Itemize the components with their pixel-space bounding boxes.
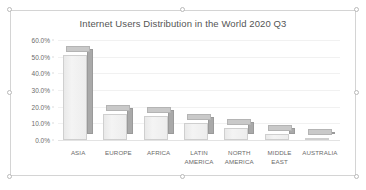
chart-object[interactable]: Internet Users Distribution in the World… — [10, 10, 356, 176]
y-axis-tick-label: 40.0% — [32, 70, 50, 77]
plot-area[interactable] — [58, 40, 340, 147]
x-axis-category-label: ASIA — [58, 149, 98, 158]
axis-baseline — [58, 140, 340, 141]
selection-handle-top-left[interactable] — [7, 7, 12, 12]
selection-handle-bottom-left[interactable] — [7, 174, 12, 179]
y-axis-tick-mark — [52, 106, 54, 107]
bar-front-face — [224, 128, 248, 141]
bar-top-face — [187, 114, 211, 120]
bar-top-face — [308, 129, 332, 135]
gridline — [58, 57, 340, 58]
x-axis-label-line: AMERICA — [179, 158, 219, 167]
gridline — [58, 73, 340, 74]
x-axis-category-label: MIDDLEEAST — [259, 149, 299, 166]
bar-top-face — [66, 46, 90, 52]
bar-latin-america[interactable] — [184, 117, 214, 140]
y-axis-tick-label: 20.0% — [32, 103, 50, 110]
x-axis-label-line: MIDDLE — [259, 149, 299, 158]
x-axis-label-line: AMERICA — [219, 158, 259, 167]
x-axis-label-line: EAST — [259, 158, 299, 167]
y-axis: 0.0%10.0%20.0%30.0%40.0%50.0%60.0% — [10, 40, 54, 147]
bar-side-face — [168, 110, 174, 135]
bar-top-face — [147, 107, 171, 113]
selection-handle-middle-right[interactable] — [354, 90, 359, 95]
bar-europe[interactable] — [103, 108, 133, 141]
y-axis-tick-label: 10.0% — [32, 120, 50, 127]
bar-front-face — [265, 134, 289, 141]
bar-front-face — [184, 123, 208, 140]
y-axis-tick-mark — [52, 123, 54, 124]
y-axis-tick-mark — [52, 56, 54, 57]
x-axis-label-line: EUROPE — [98, 149, 138, 158]
y-axis-tick-label: 50.0% — [32, 53, 50, 60]
bar-north-america[interactable] — [224, 122, 254, 141]
bar-side-face — [87, 49, 93, 134]
bar-asia[interactable] — [63, 49, 93, 140]
chart-title[interactable]: Internet Users Distribution in the World… — [10, 18, 356, 29]
x-axis-label-line: AFRICA — [139, 149, 179, 158]
x-axis-label-line: LATIN — [179, 149, 219, 158]
y-axis-tick-label: 60.0% — [32, 37, 50, 44]
y-axis-tick-mark — [52, 140, 54, 141]
bar-front-face — [63, 55, 87, 140]
bar-top-face — [106, 105, 130, 111]
y-axis-tick-mark — [52, 40, 54, 41]
bar-side-face — [127, 108, 133, 135]
selection-handle-middle-left[interactable] — [7, 90, 12, 95]
bar-africa[interactable] — [144, 110, 174, 141]
y-axis-tick-mark — [52, 90, 54, 91]
selection-handle-top-center[interactable] — [180, 7, 185, 12]
selection-handle-bottom-right[interactable] — [354, 174, 359, 179]
x-axis-label-line: NORTH — [219, 149, 259, 158]
bar-australia[interactable] — [305, 132, 335, 141]
x-axis-category-label: AFRICA — [139, 149, 179, 158]
x-axis-category-label: NORTHAMERICA — [219, 149, 259, 166]
x-axis-category-label: EUROPE — [98, 149, 138, 158]
x-axis-category-label: LATINAMERICA — [179, 149, 219, 166]
x-axis-label-line: ASIA — [58, 149, 98, 158]
bar-front-face — [103, 114, 127, 141]
bar-middle-east[interactable] — [265, 128, 295, 141]
x-axis-label-line: AUSTRALIA — [300, 149, 340, 158]
selection-handle-bottom-center[interactable] — [180, 174, 185, 179]
bar-top-face — [268, 125, 292, 131]
bar-front-face — [305, 138, 329, 141]
gridline — [58, 40, 340, 41]
gridline — [58, 90, 340, 91]
gridline — [58, 107, 340, 108]
selection-handle-top-right[interactable] — [354, 7, 359, 12]
x-axis-category-label: AUSTRALIA — [300, 149, 340, 158]
y-axis-tick-label: 0.0% — [35, 137, 50, 144]
y-axis-tick-label: 30.0% — [32, 87, 50, 94]
y-axis-tick-mark — [52, 73, 54, 74]
bar-top-face — [227, 119, 251, 125]
x-axis: ASIAEUROPEAFRICALATINAMERICANORTHAMERICA… — [58, 149, 340, 175]
bar-front-face — [144, 116, 168, 141]
